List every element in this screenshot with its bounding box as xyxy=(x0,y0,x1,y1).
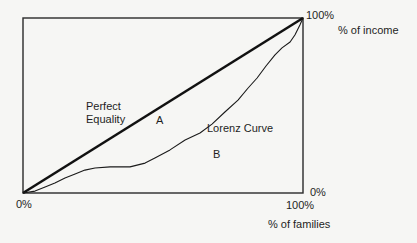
y-axis-min-label: 0% xyxy=(310,186,326,199)
perfect-equality-line xyxy=(23,18,303,193)
y-axis-max-label: 100% xyxy=(306,9,334,22)
x-axis-min-label: 0% xyxy=(16,198,32,211)
area-b-label: B xyxy=(213,148,220,161)
perfect-equality-label: Perfect Equality xyxy=(86,100,125,126)
x-axis-title: % of families xyxy=(268,218,330,231)
area-a-label: A xyxy=(156,114,163,127)
x-axis-max-label: 100% xyxy=(286,199,314,212)
lorenz-curve-label: Lorenz Curve xyxy=(207,122,273,135)
y-axis-title: % of income xyxy=(338,24,399,37)
